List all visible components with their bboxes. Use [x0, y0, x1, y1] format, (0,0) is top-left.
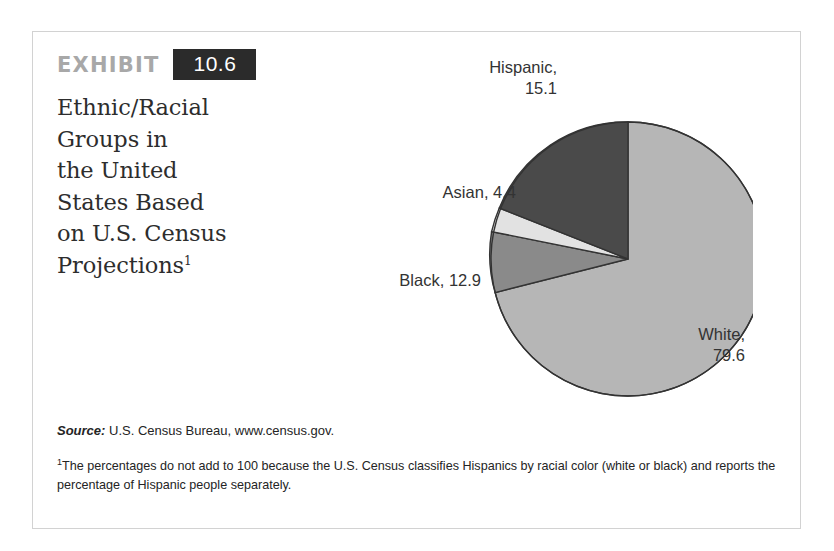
title-line-3: the United: [57, 157, 177, 183]
source-text: U.S. Census Bureau, www.census.gov.: [105, 423, 334, 438]
pie-label-white-value: 79.6: [713, 346, 745, 364]
pie-slice-black: [490, 232, 628, 293]
page-title: Ethnic/Racial Groups in the United State…: [57, 92, 287, 281]
title-line-1: Ethnic/Racial: [57, 94, 209, 120]
pie-label-white-name: White,: [698, 325, 745, 343]
pie-label-black: Black, 12.9: [353, 270, 481, 291]
title-footnote-marker: 1: [184, 253, 192, 267]
pie-slice-asian: [492, 208, 628, 259]
pie-label-asian: Asian, 4.4: [396, 182, 516, 203]
pie-outline: [491, 122, 753, 396]
exhibit-label: EXHIBIT: [57, 53, 159, 77]
pie-slice-hispanic: [499, 122, 628, 259]
title-line-2: Groups in: [57, 126, 168, 152]
pie-label-hispanic-value: 15.1: [525, 79, 557, 97]
pie-label-white: White, 79.6: [655, 324, 745, 366]
footnote: 1The percentages do not add to 100 becau…: [57, 457, 777, 495]
title-line-5: on U.S. Census: [57, 220, 226, 246]
pie-label-hispanic-name: Hispanic,: [489, 58, 557, 76]
footnote-text: The percentages do not add to 100 becaus…: [57, 459, 775, 492]
pie-label-hispanic: Hispanic, 15.1: [437, 57, 557, 99]
title-line-4: States Based: [57, 189, 204, 215]
title-line-6: Projections: [57, 252, 184, 278]
pie-slice-white: [495, 122, 753, 396]
source-label: Source:: [57, 423, 105, 438]
exhibit-number-badge: 10.6: [173, 49, 256, 80]
pie-chart-svg: [333, 27, 753, 447]
exhibit-header: EXHIBIT 10.6: [57, 49, 256, 80]
source-line: Source: U.S. Census Bureau, www.census.g…: [57, 423, 334, 438]
exhibit-frame: EXHIBIT 10.6 Ethnic/Racial Groups in the…: [32, 31, 801, 529]
